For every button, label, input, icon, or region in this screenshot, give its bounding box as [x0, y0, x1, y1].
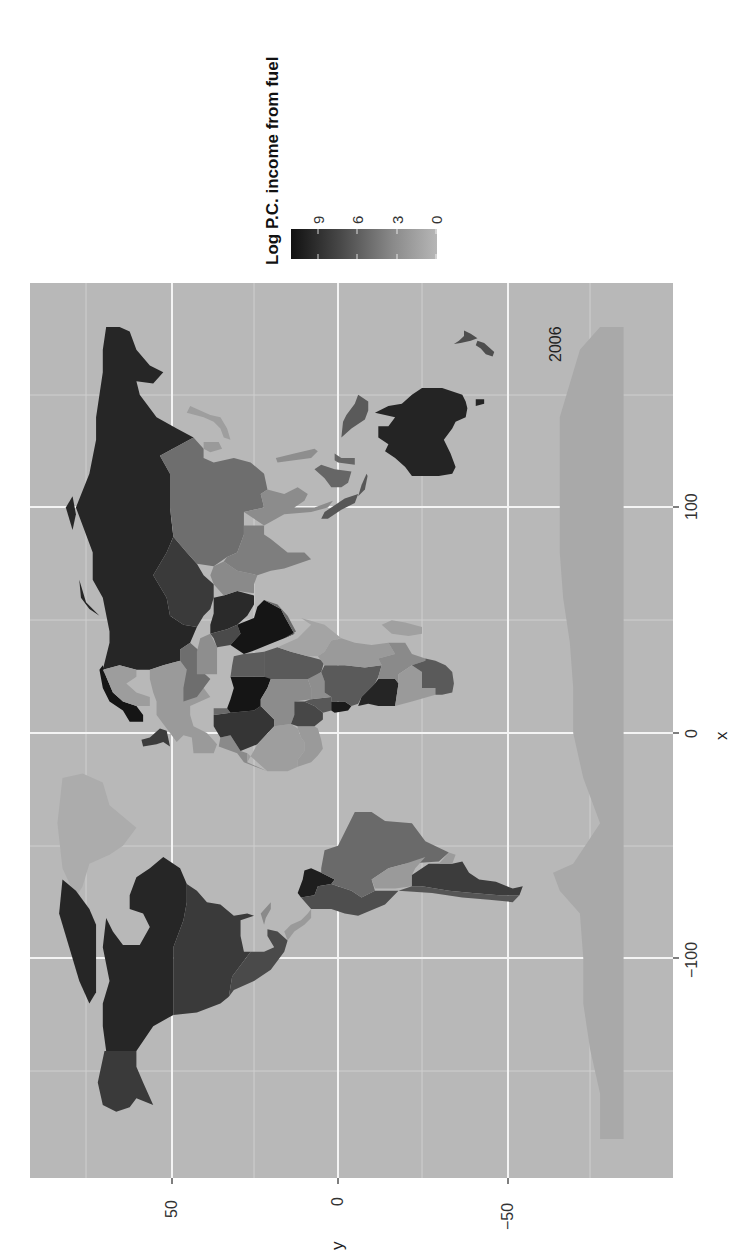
- legend-label-9: 9: [310, 216, 327, 224]
- y-tick-label-50: 50: [163, 1200, 181, 1218]
- x-tick-label-100: 100: [683, 493, 701, 520]
- x-tick-label-0: 0: [683, 729, 701, 738]
- x-axis-ticks: [673, 507, 679, 958]
- y-tick-label-0: 0: [329, 1197, 347, 1206]
- y-axis-ticks: [172, 1178, 508, 1184]
- y-axis-title: y: [328, 1242, 348, 1251]
- year-annotation: 2006: [547, 326, 565, 362]
- x-tick-label-minus-100: −100: [683, 942, 701, 978]
- map-plot: [0, 0, 751, 1259]
- legend-title: Log P.C. income from fuel: [263, 57, 283, 265]
- legend-label-6: 6: [349, 216, 366, 224]
- legend-label-3: 3: [389, 216, 406, 224]
- x-axis-title: x: [712, 732, 732, 741]
- legend-colorbar: [291, 229, 437, 259]
- legend-label-0: 0: [428, 216, 445, 224]
- figure: 50 0 −50 y 100 0 −100 x 2006 Log P.C. in…: [0, 0, 751, 1259]
- y-tick-label-minus-50: −50: [499, 1203, 517, 1230]
